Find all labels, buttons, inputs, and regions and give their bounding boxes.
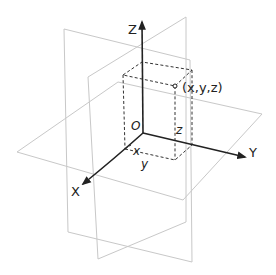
z-axis (142, 22, 143, 133)
diagram-canvas: Z Y X O (x,y,z) z x y (0, 0, 276, 275)
y-axis-label: Y (248, 145, 257, 160)
origin-label: O (131, 119, 140, 133)
point-label: (x,y,z) (182, 80, 223, 95)
y-axis (143, 133, 245, 157)
z-axis-label: Z (128, 22, 137, 37)
y-component-label: y (140, 157, 149, 171)
x-axis-label: X (71, 184, 80, 199)
plane-xy (17, 82, 262, 200)
coordinate-diagram: Z Y X O (x,y,z) z x y (0, 0, 276, 275)
z-component-label: z (175, 123, 183, 137)
x-component-label: x (132, 144, 141, 158)
point-marker (173, 84, 177, 88)
